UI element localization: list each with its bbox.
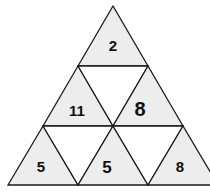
cell-value-r3-p3: 5 (102, 158, 111, 177)
cell-value-r3-p1: 5 (37, 158, 45, 175)
cell-value-r2-p3: 8 (134, 98, 145, 120)
triangle-puzzle: 2 11 8 5 5 8 (0, 0, 210, 196)
cell-value-r1-p1: 2 (109, 37, 117, 54)
cell-value-r2-p1: 11 (69, 102, 85, 119)
cell-value-r3-p5: 8 (176, 158, 184, 175)
